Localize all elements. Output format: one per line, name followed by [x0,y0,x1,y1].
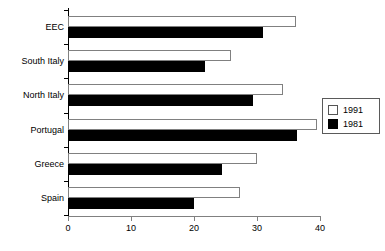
bar-1991 [68,153,257,164]
value-tick [194,216,195,221]
legend-entry-1981: 1981 [328,117,379,131]
bar-1991 [68,50,231,61]
category-label: Greece [2,159,64,169]
legend-entry-1991: 1991 [328,103,379,117]
category-label: Spain [2,193,64,203]
value-tick [68,216,69,221]
value-tick [257,216,258,221]
category-label: EEC [2,22,64,32]
bar-1991 [68,187,240,198]
bar-1981 [68,164,222,175]
bar-group [68,153,320,177]
category-label: South Italy [2,56,64,66]
category-label: North Italy [2,90,64,100]
caption-remnant [70,243,300,250]
bar-1991 [68,16,296,27]
plot-area [68,10,320,215]
bar-chart: EECSouth ItalyNorth ItalyPortugalGreeceS… [0,0,385,251]
value-tick-label: 40 [305,223,335,234]
value-tick [131,216,132,221]
bar-group [68,16,320,40]
black-square-icon [328,119,338,129]
bar-1981 [68,130,297,141]
legend-label-1981: 1981 [343,119,363,129]
legend: 1991 1981 [322,98,380,134]
bar-group [68,119,320,143]
value-tick-label: 10 [116,223,146,234]
value-tick-label: 30 [242,223,272,234]
value-tick-label: 20 [179,223,209,234]
category-label: Portugal [2,125,64,135]
bar-1981 [68,27,263,38]
bar-1991 [68,84,283,95]
bar-group [68,84,320,108]
bar-1981 [68,61,205,72]
value-tick-label: 0 [53,223,83,234]
white-square-icon [328,105,338,115]
value-tick [320,216,321,221]
bar-1981 [68,95,253,106]
legend-label-1991: 1991 [343,105,363,115]
bar-group [68,50,320,74]
bar-1981 [68,198,194,209]
bar-1991 [68,119,317,130]
category-label-layer: EECSouth ItalyNorth ItalyPortugalGreeceS… [0,10,64,215]
bar-group [68,187,320,211]
